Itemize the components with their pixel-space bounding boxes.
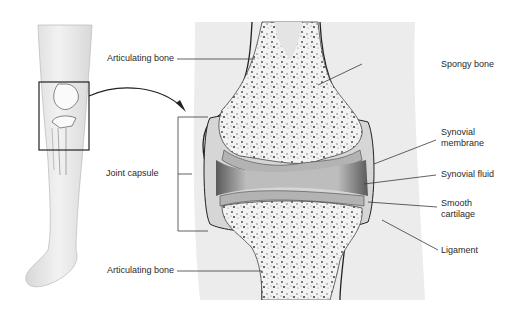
label-synovial-membrane-line2: membrane [441, 138, 484, 149]
knee-cross-section [194, 22, 426, 321]
leg-illustration [26, 25, 186, 287]
knee-joint-diagram [0, 0, 517, 321]
label-articulating-bone-bottom: Articulating bone [107, 265, 174, 276]
label-joint-capsule: Joint capsule [106, 168, 159, 179]
label-ligament: Ligament [441, 245, 478, 256]
label-smooth-cartilage: Smooth cartilage [441, 198, 475, 219]
label-articulating-bone-top: Articulating bone [107, 53, 174, 64]
label-smooth-cartilage-line2: cartilage [441, 209, 475, 220]
label-synovial-fluid: Synovial fluid [441, 169, 494, 180]
label-spongy-bone: Spongy bone [441, 59, 494, 70]
label-synovial-membrane-line1: Synovial [441, 127, 484, 138]
arrow-curve [89, 88, 183, 108]
arrow-head-icon [176, 100, 186, 112]
label-synovial-membrane: Synovial membrane [441, 127, 484, 148]
label-smooth-cartilage-line1: Smooth [441, 198, 475, 209]
